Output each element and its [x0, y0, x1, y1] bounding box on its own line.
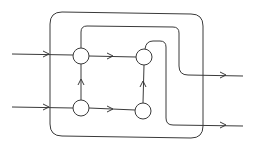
- edge-n2-output-bottom: [145, 41, 243, 126]
- node-bottom-left: [73, 100, 89, 116]
- flow-diagram: [0, 0, 258, 147]
- boundary-box: [50, 12, 203, 138]
- output-arrow-bottom: [220, 122, 226, 128]
- edge-n1-output-top: [81, 26, 243, 76]
- output-arrow-top: [220, 72, 226, 78]
- input-edge-top: [12, 54, 73, 55]
- edge-n4-n2: [143, 65, 144, 103]
- node-top-right: [136, 49, 152, 65]
- input-edge-bottom: [12, 107, 73, 108]
- input-arrow-top: [43, 51, 49, 57]
- input-arrow-bottom: [43, 104, 49, 110]
- node-top-left: [73, 48, 89, 64]
- node-bottom-right: [135, 103, 151, 119]
